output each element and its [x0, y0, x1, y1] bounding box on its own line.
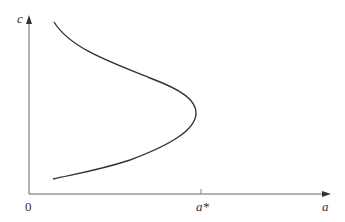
y-axis-arrow-icon	[26, 15, 32, 24]
a-star-label: a*	[196, 200, 209, 213]
origin-label: 0	[25, 200, 32, 213]
x-axis-arrow-icon	[322, 191, 331, 197]
plot-canvas	[0, 0, 345, 222]
fold-curve	[53, 22, 196, 179]
x-axis-label: a	[322, 200, 329, 213]
y-axis-label: c	[17, 12, 23, 25]
